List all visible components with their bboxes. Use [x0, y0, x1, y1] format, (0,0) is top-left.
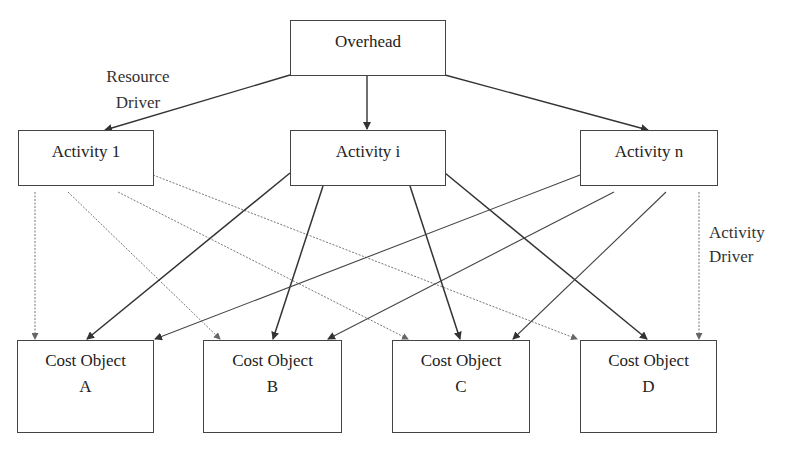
- cost-object-c-node: Cost Object C: [392, 340, 530, 433]
- activity-n-node: Activity n: [580, 130, 718, 186]
- edge-activity-i-cost-object-b: [273, 186, 323, 339]
- activity-i-edges: [87, 173, 647, 339]
- resource-driver-annotation: Resource Driver: [98, 66, 178, 114]
- resource-driver-line2: Driver: [98, 92, 178, 114]
- cost-object-c-letter: C: [393, 376, 529, 398]
- cost-object-d-letter: D: [581, 376, 716, 398]
- activity-1-node: Activity 1: [18, 130, 154, 186]
- resource-driver-line1: Resource: [98, 66, 178, 88]
- overhead-label: Overhead: [291, 31, 445, 53]
- activity-driver-line2: Driver: [709, 246, 765, 268]
- cost-object-a-label: Cost Object: [18, 350, 153, 372]
- edge-activity-i-cost-object-d: [445, 173, 647, 339]
- activity-i-node: Activity i: [290, 130, 446, 186]
- edge-activity-1-cost-object-b: [68, 192, 220, 339]
- cost-object-a-letter: A: [18, 376, 153, 398]
- cost-object-d-label: Cost Object: [581, 350, 716, 372]
- overhead-node: Overhead: [290, 20, 446, 76]
- activity-n-label: Activity n: [581, 141, 717, 163]
- activity-1-label: Activity 1: [19, 141, 153, 163]
- cost-object-d-node: Cost Object D: [580, 340, 717, 433]
- cost-object-b-node: Cost Object B: [203, 340, 342, 433]
- edge-activity-n-cost-object-c: [513, 192, 666, 339]
- edge-overhead-activity-n: [445, 75, 648, 130]
- edge-activity-n-cost-object-a: [155, 175, 580, 339]
- edge-activity-n-cost-object-b: [328, 192, 614, 339]
- edge-activity-1-cost-object-d: [153, 175, 577, 339]
- edge-activity-i-cost-object-a: [87, 173, 290, 339]
- edge-activity-1-cost-object-c: [118, 192, 408, 339]
- activity-driver-annotation: Activity Driver: [709, 222, 765, 268]
- activity-i-label: Activity i: [291, 141, 445, 163]
- activity-driver-line1: Activity: [709, 222, 765, 244]
- cost-object-c-label: Cost Object: [393, 350, 529, 372]
- edge-activity-i-cost-object-c: [410, 186, 460, 339]
- resource-driver-edges: [105, 75, 648, 130]
- cost-object-a-node: Cost Object A: [17, 340, 154, 433]
- cost-object-b-letter: B: [204, 376, 341, 398]
- cost-object-b-label: Cost Object: [204, 350, 341, 372]
